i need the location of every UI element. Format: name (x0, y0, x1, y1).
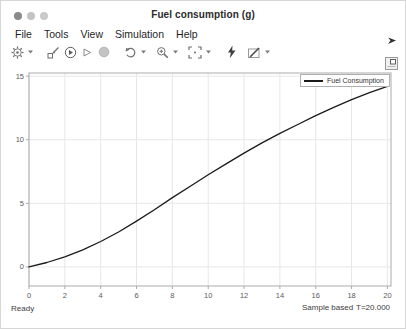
menu-simulation[interactable]: Simulation (115, 28, 164, 40)
title-bar: Fuel consumption (g) (1, 1, 405, 25)
span-fit-icon[interactable] (187, 45, 202, 59)
span-dropdown-caret[interactable] (205, 50, 212, 54)
toolbar-overflow-icon[interactable] (387, 31, 397, 49)
trigger-icon[interactable] (224, 45, 238, 59)
settings-dropdown-caret[interactable] (27, 50, 34, 54)
chart-svg: 02468101214161820051015 (1, 63, 406, 308)
restore-view-icon[interactable] (123, 45, 137, 59)
menu-file[interactable]: File (15, 28, 32, 40)
svg-text:12: 12 (240, 291, 248, 300)
run-button[interactable] (63, 45, 77, 59)
plot-area[interactable]: 02468101214161820051015 (1, 63, 406, 312)
status-sim-time: T=20.000 (356, 303, 390, 312)
menu-help[interactable]: Help (176, 28, 198, 40)
settings-gear-icon[interactable] (10, 45, 24, 59)
svg-text:16: 16 (312, 291, 320, 300)
status-ready: Ready (11, 304, 34, 313)
zoom-icon[interactable] (155, 45, 169, 59)
svg-text:0: 0 (20, 262, 24, 271)
svg-text:15: 15 (16, 72, 24, 81)
measurements-dropdown-caret[interactable] (264, 50, 271, 54)
svg-text:8: 8 (170, 291, 174, 300)
step-forward-button[interactable] (80, 45, 94, 59)
svg-text:10: 10 (16, 135, 24, 144)
measurements-icon[interactable] (246, 45, 261, 59)
menu-bar: File Tools View Simulation Help (15, 28, 198, 40)
toolbar (10, 44, 271, 60)
svg-text:20: 20 (383, 291, 391, 300)
restore-view-dropdown-caret[interactable] (140, 50, 147, 54)
svg-text:14: 14 (276, 291, 284, 300)
svg-text:5: 5 (20, 199, 24, 208)
legend-label: Fuel Consumption (327, 77, 384, 84)
menu-view[interactable]: View (80, 28, 103, 40)
svg-text:10: 10 (204, 291, 212, 300)
stop-button[interactable] (97, 45, 111, 59)
svg-text:6: 6 (134, 291, 138, 300)
window-title: Fuel consumption (g) (1, 9, 405, 20)
menu-tools[interactable]: Tools (44, 28, 69, 40)
legend-line-sample (304, 80, 323, 82)
highlight-block-icon[interactable] (46, 45, 60, 59)
zoom-dropdown-caret[interactable] (172, 50, 179, 54)
status-sample-mode: Sample based (302, 303, 353, 312)
scope-window: Fuel consumption (g) File Tools View Sim… (0, 0, 406, 329)
svg-text:0: 0 (27, 291, 31, 300)
svg-text:18: 18 (347, 291, 355, 300)
legend[interactable]: Fuel Consumption (300, 74, 390, 87)
svg-text:2: 2 (63, 291, 67, 300)
svg-text:4: 4 (99, 291, 103, 300)
